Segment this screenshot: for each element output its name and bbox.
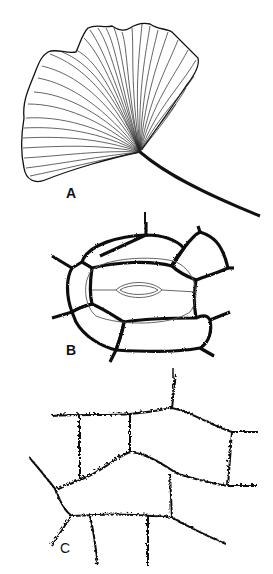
stomatal-aperture xyxy=(116,283,162,298)
figure-canvas xyxy=(0,0,273,574)
panel-label-b: B xyxy=(66,342,76,358)
subsidiary-cell-bottom-left xyxy=(72,304,124,350)
stoma-illustration xyxy=(52,222,234,362)
epidermal-cells-illustration xyxy=(28,372,256,566)
panel-label-c: C xyxy=(60,540,70,556)
panel-label-a: A xyxy=(66,185,76,201)
leaf-blade-outline xyxy=(22,23,199,181)
subsidiary-cell-right-top xyxy=(172,232,228,280)
ginkgo-leaf-illustration xyxy=(22,23,260,216)
